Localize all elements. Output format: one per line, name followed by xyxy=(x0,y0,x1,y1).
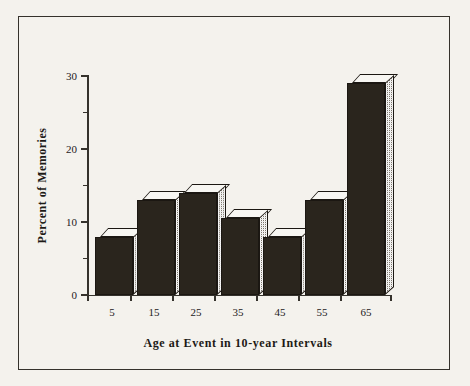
bar-5 xyxy=(95,76,133,295)
y-tick-label-10: 10 xyxy=(66,216,77,228)
bar-65-side xyxy=(385,75,394,295)
x-tick-label-45: 45 xyxy=(275,306,286,318)
x-tick-1 xyxy=(130,295,132,301)
bar-45 xyxy=(263,76,301,295)
y-tick-label-20: 20 xyxy=(66,143,77,155)
x-tick-0 xyxy=(87,295,89,301)
y-axis-title: Percent of Memories xyxy=(34,76,50,295)
x-tick-3 xyxy=(214,295,216,301)
bar-25-front xyxy=(179,193,217,295)
bar-15-front xyxy=(137,200,175,295)
x-tick-6 xyxy=(340,295,342,301)
y-tick-10: 10 xyxy=(81,221,88,223)
x-axis-title: Age at Event in 10-year Intervals xyxy=(88,336,388,351)
y-minor-tick-5 xyxy=(83,258,88,260)
bar-65-front xyxy=(347,83,385,295)
bar-55-front xyxy=(305,200,343,295)
bar-25 xyxy=(179,76,217,295)
x-tick-label-55: 55 xyxy=(317,306,328,318)
x-tick-5 xyxy=(298,295,300,301)
y-tick-20: 20 xyxy=(81,148,88,150)
y-minor-tick-25 xyxy=(83,112,88,114)
x-tick-label-15: 15 xyxy=(149,306,160,318)
bar-65 xyxy=(347,76,385,295)
bar-45-front xyxy=(263,237,301,295)
y-minor-tick-15 xyxy=(83,185,88,187)
y-tick-30: 30 xyxy=(81,75,88,77)
x-tick-label-65: 65 xyxy=(361,306,372,318)
x-tick-7 xyxy=(390,295,392,301)
x-tick-label-25: 25 xyxy=(191,306,202,318)
bar-55 xyxy=(305,76,343,295)
x-tick-label-35: 35 xyxy=(233,306,244,318)
x-tick-2 xyxy=(172,295,174,301)
y-tick-label-30: 30 xyxy=(66,70,77,82)
x-tick-4 xyxy=(256,295,258,301)
figure-canvas: 30 20 10 0 xyxy=(0,0,470,386)
bar-15 xyxy=(137,76,175,295)
bar-5-front xyxy=(95,237,133,295)
bar-35-front xyxy=(221,218,259,295)
y-tick-label-0: 0 xyxy=(72,289,78,301)
x-tick-label-5: 5 xyxy=(109,306,115,318)
bar-35 xyxy=(221,76,259,295)
